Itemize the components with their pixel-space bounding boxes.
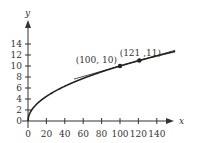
y-tick-label: 2 [16, 105, 22, 115]
y-tick-label: 12 [11, 50, 22, 60]
x-axis-arrow-icon [166, 118, 174, 124]
y-tick-label: 4 [16, 94, 22, 104]
x-axis-label: x [179, 116, 184, 126]
x-tick-label: 120 [130, 129, 147, 139]
y-tick-label: 8 [16, 72, 22, 82]
y-tick-label: 0 [16, 116, 22, 126]
data-point [137, 58, 141, 62]
point-label: (121 ,11) [120, 48, 161, 58]
y-tick-label: 14 [11, 39, 23, 49]
x-tick-label: 140 [148, 129, 165, 139]
y-tick-label: 10 [11, 61, 23, 71]
x-tick-label: 100 [111, 129, 128, 139]
y-axis-label: y [24, 8, 31, 18]
x-tick-label: 80 [96, 129, 108, 139]
data-point [118, 64, 122, 68]
x-tick-label: 0 [25, 129, 31, 139]
point-label: (100, 10) [76, 55, 117, 65]
chart: x y 020406080100120140 02468101214 (100,… [0, 0, 198, 143]
x-tick-label: 40 [59, 129, 71, 139]
y-tick-label: 6 [16, 83, 22, 93]
x-tick-label: 20 [41, 129, 53, 139]
y-axis-arrow-icon [25, 20, 31, 28]
x-tick-label: 60 [77, 129, 89, 139]
